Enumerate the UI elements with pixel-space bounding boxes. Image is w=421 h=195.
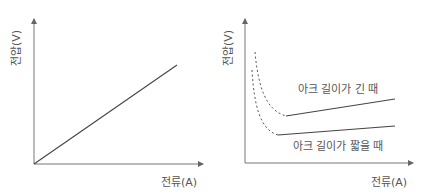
right-x-axis-label: 전류(A)	[371, 176, 407, 189]
long-arc-label: 아크 길이가 긴 때	[298, 83, 379, 96]
left-chart: 전압(V) 전류(A)	[10, 19, 203, 189]
right-chart: 아크 길이가 긴 때 아크 길이가 짧을 때 전압(V) 전류(A)	[222, 19, 413, 189]
left-x-axis-label: 전류(A)	[161, 176, 197, 189]
short-arc-dashed-curve	[252, 70, 278, 135]
long-arc-solid-line	[286, 99, 395, 116]
short-arc-label: 아크 길이가 짧을 때	[293, 139, 384, 153]
short-arc-solid-line	[278, 126, 395, 135]
long-arc-dashed-curve	[255, 52, 286, 116]
diagram-canvas: 전압(V) 전류(A) 아크 길이가 긴 때 아크 길이가 짧을 때 전압(V)…	[0, 0, 421, 195]
left-linear-line	[34, 65, 177, 164]
left-y-axis-label: 전압(V)	[10, 30, 23, 66]
right-y-axis-label: 전압(V)	[222, 30, 235, 66]
